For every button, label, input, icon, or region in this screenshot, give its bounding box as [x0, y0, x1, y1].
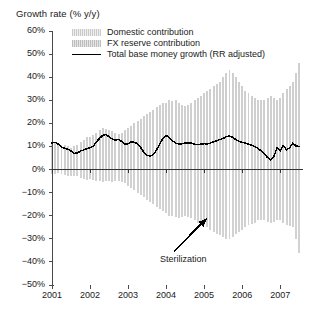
bar	[124, 170, 126, 184]
bar	[273, 170, 275, 222]
bar	[251, 96, 253, 170]
bar	[102, 170, 104, 183]
bar	[124, 130, 126, 169]
bar	[149, 112, 151, 170]
bar	[213, 86, 215, 169]
bar	[219, 170, 221, 236]
bar	[86, 170, 88, 180]
bar	[99, 170, 101, 182]
bar	[248, 170, 250, 225]
bar	[273, 98, 275, 170]
bar	[130, 126, 132, 170]
bar	[80, 170, 82, 178]
bar	[114, 133, 116, 170]
bar	[61, 145, 63, 169]
y-axis-label: −30%	[11, 233, 45, 243]
bar	[194, 100, 196, 169]
legend-item-fx-reserve: FX reserve contribution	[72, 38, 265, 49]
bar	[130, 170, 132, 188]
bar	[257, 170, 259, 221]
y-axis-label: −50%	[11, 279, 45, 289]
bar	[178, 103, 180, 170]
bar	[92, 135, 94, 170]
bar	[76, 170, 78, 177]
bar	[209, 89, 211, 170]
bar	[222, 170, 224, 237]
bar	[187, 105, 189, 170]
bar	[229, 170, 231, 239]
bar	[184, 106, 186, 170]
y-axis-label: 20%	[11, 117, 45, 127]
bar	[295, 73, 297, 170]
bar	[146, 114, 148, 169]
x-axis-label: 2007	[263, 290, 297, 300]
bar	[152, 170, 154, 205]
y-axis-label: 0%	[11, 164, 45, 174]
y-axis-label: 10%	[11, 140, 45, 150]
bar	[57, 144, 59, 169]
bar	[194, 170, 196, 221]
y-axis-label: −20%	[11, 210, 45, 220]
legend-swatch-fx-reserve-icon	[72, 40, 101, 47]
bar	[162, 103, 164, 170]
bar	[229, 70, 231, 169]
bar	[260, 170, 262, 221]
bar	[276, 100, 278, 169]
bar	[95, 133, 97, 170]
bar	[209, 170, 211, 230]
bar	[216, 170, 218, 235]
bar	[197, 98, 199, 170]
bar	[286, 170, 288, 225]
bar	[235, 170, 237, 235]
bar	[238, 170, 240, 232]
bar	[149, 170, 151, 202]
y-axis-label: −10%	[11, 187, 45, 197]
legend-label-fx-reserve: FX reserve contribution	[107, 38, 200, 49]
bar	[225, 73, 227, 170]
bar	[286, 89, 288, 170]
bar	[140, 119, 142, 170]
bar	[200, 170, 202, 225]
bar	[292, 82, 294, 170]
bar	[292, 170, 294, 228]
legend-swatch-total-line-icon	[72, 51, 101, 58]
bar	[171, 170, 173, 216]
y-axis-label: 40%	[11, 71, 45, 81]
bar	[143, 116, 145, 169]
bar	[241, 170, 243, 230]
bar	[121, 133, 123, 170]
bar	[206, 91, 208, 170]
x-axis-label: 2002	[73, 290, 107, 300]
bar	[67, 170, 69, 177]
bar	[108, 170, 110, 182]
bar	[162, 170, 164, 212]
bar	[83, 170, 85, 179]
bar	[248, 93, 250, 169]
bar	[279, 170, 281, 221]
sterilization-arrow-icon	[174, 218, 207, 252]
bar	[95, 170, 97, 182]
bar	[241, 86, 243, 169]
bar	[251, 170, 253, 224]
bars-domestic-contribution	[51, 170, 300, 253]
bar	[156, 170, 158, 207]
bar	[235, 77, 237, 169]
legend-label-domestic: Domestic contribution	[107, 27, 194, 38]
bar	[184, 170, 186, 216]
bar	[137, 170, 139, 193]
bar	[121, 170, 123, 183]
bar	[213, 170, 215, 232]
bar	[181, 170, 183, 217]
bar	[105, 170, 107, 182]
y-axis-label: 30%	[11, 94, 45, 104]
bar	[99, 130, 101, 169]
bar	[92, 170, 94, 180]
bar	[143, 170, 145, 198]
bar	[244, 91, 246, 170]
bar	[298, 63, 300, 169]
bar	[289, 170, 291, 227]
bar	[168, 100, 170, 169]
bar	[118, 170, 120, 182]
y-axis-label: 50%	[11, 48, 45, 58]
bar	[111, 131, 113, 169]
